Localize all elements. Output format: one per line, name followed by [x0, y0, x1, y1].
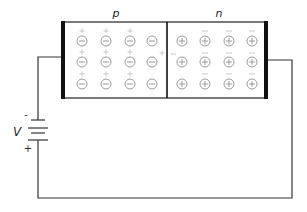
acceptor-ion [77, 36, 87, 46]
acceptor-ion [125, 79, 135, 89]
hole [80, 72, 85, 77]
donor-ion [224, 57, 234, 67]
battery-symbol [28, 114, 48, 145]
hole [104, 50, 109, 55]
hole [128, 72, 133, 77]
n-electrode [264, 21, 268, 99]
donor-ion [177, 79, 187, 89]
acceptor-ion [101, 36, 111, 46]
p-region-ions [77, 36, 157, 89]
donor-ion [247, 36, 257, 46]
acceptor-ion [101, 57, 111, 67]
donor-ion [200, 79, 210, 89]
hole [128, 50, 133, 55]
hole [104, 72, 109, 77]
donor-ion [247, 57, 257, 67]
battery-plus-sign: + [24, 143, 32, 154]
pn-junction-diagram: - V + p n [0, 0, 307, 212]
donor-ion [177, 36, 187, 46]
acceptor-ion [147, 79, 157, 89]
acceptor-ion [77, 79, 87, 89]
p-electrode [61, 21, 65, 99]
donor-ion [200, 36, 210, 46]
donor-ion [224, 79, 234, 89]
hole [104, 29, 109, 34]
hole [128, 29, 133, 34]
acceptor-ion [147, 36, 157, 46]
n-region-electrons [171, 31, 255, 74]
donor-ion [177, 57, 187, 67]
battery-minus-sign: - [24, 109, 28, 120]
semiconductor-block [61, 21, 268, 99]
battery-voltage-label: V [13, 125, 22, 139]
hole [160, 51, 165, 56]
donor-ion [247, 79, 257, 89]
circuit-wire [38, 57, 292, 198]
acceptor-ion [125, 36, 135, 46]
n-region-ions [177, 36, 257, 89]
acceptor-ion [101, 79, 111, 89]
p-region-label: p [112, 7, 120, 20]
donor-ion [200, 57, 210, 67]
n-region-label: n [216, 7, 223, 20]
acceptor-ion [125, 57, 135, 67]
acceptor-ion [147, 57, 157, 67]
donor-ion [224, 36, 234, 46]
acceptor-ion [77, 57, 87, 67]
hole [80, 29, 85, 34]
hole [80, 50, 85, 55]
